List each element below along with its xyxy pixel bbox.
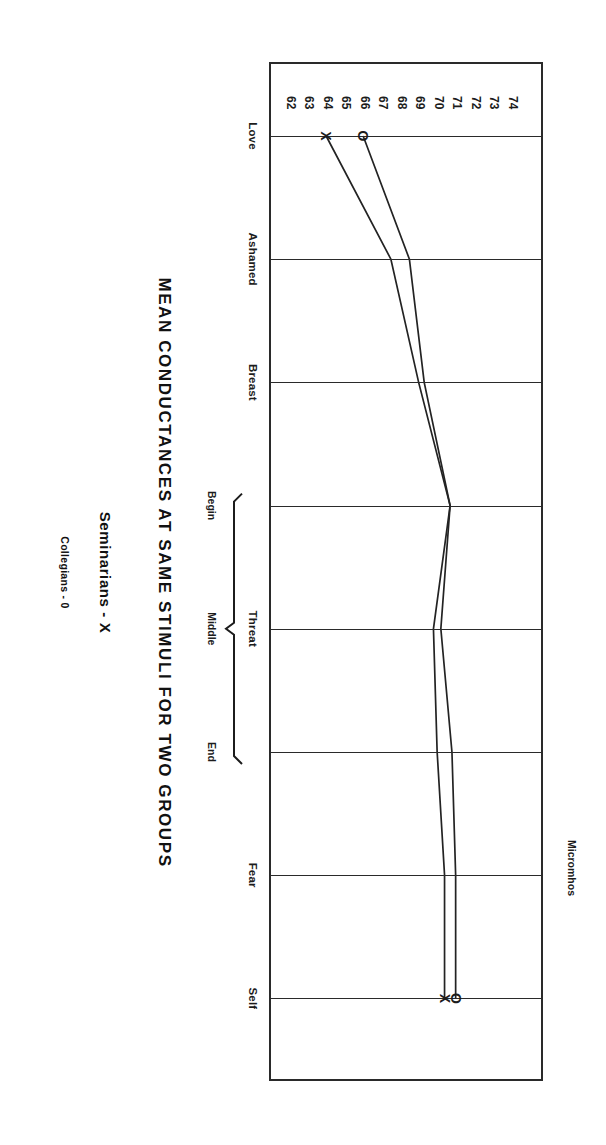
data-marker-collegians: O xyxy=(356,131,370,142)
subgroup-label-begin: Begin xyxy=(206,491,218,520)
threat-subgroup-bracket: BeginMiddleEnd xyxy=(198,0,244,1145)
grid-line xyxy=(271,506,541,507)
figure-stage: Micromhos OOXX LoveAshamedBreastThreatFe… xyxy=(0,0,606,1145)
value-tick-71: 71 xyxy=(451,96,465,109)
grid-line xyxy=(271,752,541,753)
value-tick-66: 66 xyxy=(358,96,372,109)
grid-line xyxy=(271,136,541,137)
bracket-icon xyxy=(218,0,244,1145)
y-axis-title: Micromhos xyxy=(566,840,578,896)
subgroup-label-end: End xyxy=(206,742,218,762)
grid-line xyxy=(271,998,541,999)
value-tick-69: 69 xyxy=(414,96,428,109)
value-tick-72: 72 xyxy=(469,96,483,109)
value-tick-68: 68 xyxy=(395,96,409,109)
data-marker-seminarians: X xyxy=(438,994,452,1003)
value-tick-62: 62 xyxy=(284,96,298,109)
value-tick-67: 67 xyxy=(377,96,391,109)
value-tick-70: 70 xyxy=(432,96,446,109)
series-layer xyxy=(271,64,541,1079)
chart-title: MEAN CONDUCTANCES AT SAME STIMULI FOR TW… xyxy=(154,0,174,1145)
value-tick-63: 63 xyxy=(303,96,317,109)
grid-line xyxy=(271,382,541,383)
category-label-ashamed: Ashamed xyxy=(247,233,259,286)
value-tick-64: 64 xyxy=(321,96,335,109)
category-label-self: Self xyxy=(247,987,259,1009)
grid-line xyxy=(271,875,541,876)
legend: Seminarians - X Collegians - 0 xyxy=(59,0,114,1145)
grid-line xyxy=(271,259,541,260)
data-marker-seminarians: X xyxy=(319,131,333,140)
category-label-fear: Fear xyxy=(247,863,259,888)
value-tick-74: 74 xyxy=(506,96,520,109)
value-tick-65: 65 xyxy=(340,96,354,109)
category-label-breast: Breast xyxy=(247,364,259,401)
legend-entry-seminarians: Seminarians - X xyxy=(97,0,114,1145)
plot-frame: OOXX xyxy=(269,62,543,1081)
category-label-love: Love xyxy=(247,122,259,150)
category-label-threat: Threat xyxy=(247,611,259,647)
legend-entry-collegians: Collegians - 0 xyxy=(59,0,71,1145)
subgroup-label-middle: Middle xyxy=(206,612,218,645)
value-tick-73: 73 xyxy=(488,96,502,109)
grid-line xyxy=(271,629,541,630)
series-line-seminarians xyxy=(326,136,450,998)
